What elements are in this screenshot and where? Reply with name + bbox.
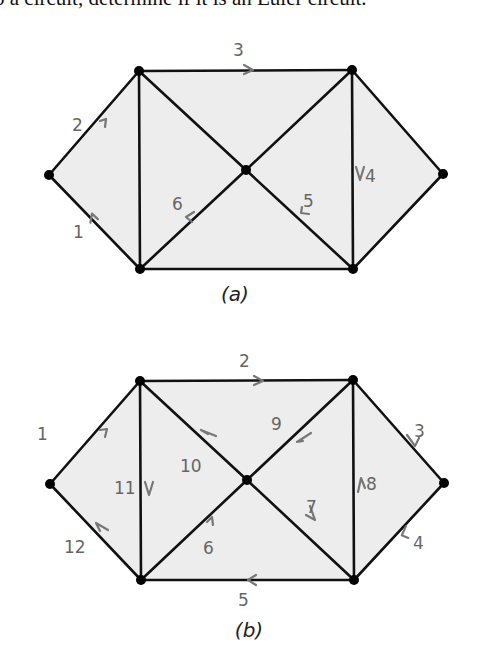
edge-label: 3 — [233, 40, 244, 60]
edge-label: 2 — [239, 351, 250, 371]
diagram-a: 2 1 3 4 5 6 (a) — [44, 40, 448, 306]
graph-figure: 2 1 3 4 5 6 (a) — [0, 0, 484, 671]
edge-label: 1 — [73, 222, 84, 242]
edge-label: 4 — [365, 166, 376, 186]
edge-label: 7 — [306, 497, 317, 517]
edge-label: 5 — [303, 191, 314, 211]
edge-label: 12 — [64, 537, 86, 557]
edge-label: 3 — [414, 421, 425, 441]
edge-label: 5 — [238, 590, 249, 610]
edge-label: 9 — [271, 414, 282, 434]
caption-a: (a) — [221, 282, 249, 306]
caption-b: (b) — [235, 618, 263, 642]
edge-label: 8 — [366, 474, 377, 494]
edge-label: 6 — [203, 538, 214, 558]
edge-label: 4 — [413, 533, 424, 553]
edge-label: 6 — [172, 194, 183, 214]
edge-label: 11 — [114, 478, 136, 498]
diagram-b: 1 2 3 4 5 6 7 8 9 10 11 12 (b) — [37, 351, 449, 642]
edge-label: 2 — [72, 115, 83, 135]
edge-label: 1 — [37, 424, 48, 444]
edge-label: 10 — [180, 456, 202, 476]
